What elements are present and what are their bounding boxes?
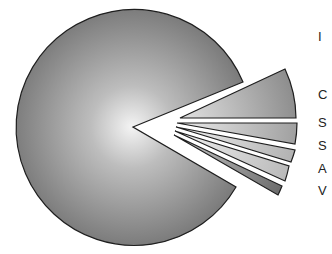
legend-item-c: C [318, 88, 327, 102]
legend-item-s1: S [318, 116, 327, 130]
legend-item-v: V [318, 184, 327, 198]
legend-item-a: A [318, 162, 327, 176]
legend-item-i: I [318, 30, 322, 44]
legend-item-s2: S [318, 139, 327, 153]
